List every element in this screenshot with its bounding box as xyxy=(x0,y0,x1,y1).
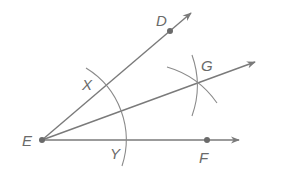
label-X: X xyxy=(82,77,92,92)
point-E xyxy=(39,137,45,143)
label-E: E xyxy=(22,133,32,148)
angle-bisector-diagram xyxy=(0,0,282,185)
point-F xyxy=(204,137,210,143)
label-D: D xyxy=(156,13,167,28)
label-G: G xyxy=(201,58,213,73)
label-Y: Y xyxy=(110,146,120,161)
ray-EG xyxy=(42,62,255,140)
point-D xyxy=(167,28,173,34)
label-F: F xyxy=(199,150,208,165)
